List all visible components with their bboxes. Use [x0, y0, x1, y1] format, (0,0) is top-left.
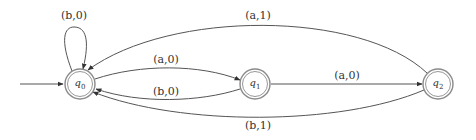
- edge-q2-q0-top: [88, 25, 427, 73]
- label-q2-q0-bottom: (b,1): [245, 120, 271, 131]
- edge-q0-q0-self-loop: [65, 27, 87, 71]
- state-label-q2: q2: [433, 78, 444, 91]
- state-diagram: q0 q1 q2 (b,0) (a,0) (b,0) (a,0) (a,1) (…: [0, 0, 476, 140]
- label-q2-q0-top: (a,1): [245, 10, 271, 21]
- label-q1-q2: (a,0): [334, 70, 360, 81]
- state-label-q0: q0: [75, 78, 86, 91]
- label-q0-q1: (a,0): [153, 54, 179, 65]
- label-q0-q0: (b,0): [61, 10, 87, 21]
- label-q1-q0: (b,0): [153, 86, 179, 97]
- state-label-q1: q1: [250, 78, 261, 91]
- edge-q0-q1: [95, 68, 240, 80]
